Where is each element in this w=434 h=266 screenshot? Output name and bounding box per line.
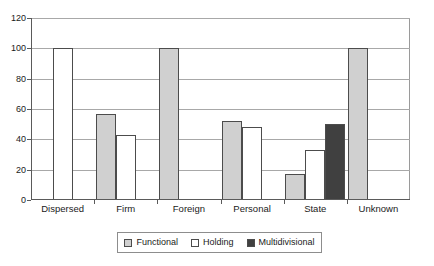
legend-label: Multidivisional xyxy=(259,238,315,247)
legend-swatch-multidivisional-icon xyxy=(247,239,255,247)
x-tick-label-state: State xyxy=(284,203,347,214)
y-tick-label-40: 40 xyxy=(0,135,26,144)
bar-personal-functional xyxy=(222,121,242,200)
bar-firm-functional xyxy=(96,114,116,200)
legend-swatch-functional-icon xyxy=(124,239,132,247)
x-tick-label-firm: Firm xyxy=(94,203,157,214)
legend-item-multidivisional[interactable]: Multidivisional xyxy=(247,238,315,247)
y-tick-label-60: 60 xyxy=(0,105,26,114)
x-tick-label-foreign: Foreign xyxy=(157,203,220,214)
bar-group-personal xyxy=(221,18,284,200)
legend-item-holding[interactable]: Holding xyxy=(191,238,234,247)
legend-swatch-holding-icon xyxy=(191,239,199,247)
bar-group-dispersed xyxy=(31,18,94,200)
bar-group-firm xyxy=(94,18,157,200)
bar-state-multidivisional xyxy=(325,124,345,200)
y-tick-mark-0 xyxy=(27,200,31,201)
bar-state-functional xyxy=(285,174,305,200)
y-tick-label-120: 120 xyxy=(0,14,26,23)
bar-group-state xyxy=(284,18,347,200)
bar-foreign-functional xyxy=(159,48,179,200)
bar-personal-holding xyxy=(242,127,262,200)
legend-item-functional[interactable]: Functional xyxy=(124,238,178,247)
plot-area xyxy=(31,18,410,200)
y-tick-label-100: 100 xyxy=(0,44,26,53)
clipped-title-remnant xyxy=(62,0,212,3)
bar-group-foreign xyxy=(157,18,220,200)
x-tick-label-personal: Personal xyxy=(221,203,284,214)
bar-state-holding xyxy=(305,150,325,200)
legend-label: Holding xyxy=(203,238,234,247)
bar-dispersed-holding xyxy=(53,48,73,200)
bar-group-unknown xyxy=(347,18,410,200)
bar-firm-holding xyxy=(116,135,136,200)
y-tick-label-20: 20 xyxy=(0,166,26,175)
legend: FunctionalHoldingMultidivisional xyxy=(117,232,322,253)
bar-unknown-functional xyxy=(348,48,368,200)
bar-chart: 020406080100120 DispersedFirmForeignPers… xyxy=(0,0,434,266)
legend-label: Functional xyxy=(136,238,178,247)
y-axis-line xyxy=(31,18,32,200)
x-tick-label-unknown: Unknown xyxy=(347,203,410,214)
y-tick-label-80: 80 xyxy=(0,75,26,84)
y-tick-label-0: 0 xyxy=(0,196,26,205)
x-tick-label-dispersed: Dispersed xyxy=(31,203,94,214)
